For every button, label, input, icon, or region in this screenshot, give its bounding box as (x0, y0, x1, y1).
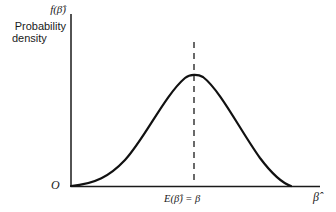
y-axis-title: Probability density (10, 20, 66, 44)
origin-label: O (51, 179, 60, 191)
bell-curve (71, 75, 291, 186)
y-axis-title-line2: density (10, 32, 66, 44)
y-axis-title-line1: Probability (10, 20, 66, 32)
x-axis-label: β̂ (313, 191, 319, 203)
mean-label: E(β̂) = β (164, 193, 200, 205)
y-function-label: f(β̂) (36, 3, 66, 15)
